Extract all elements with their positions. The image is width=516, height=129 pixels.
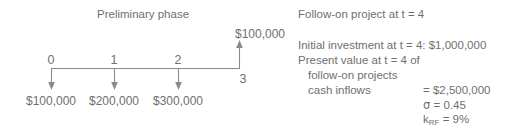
outflow-arrowhead-t1 (111, 82, 118, 90)
inflow-amount-t3: $100,000 (235, 28, 285, 40)
initial-investment-line: Initial investment at t = 4: $1,000,000 (298, 40, 486, 52)
k-symbol: k (423, 113, 429, 125)
sigma-value-row: σ = 0.45 (423, 100, 466, 112)
cash-inflows-line: cash inflows (308, 85, 371, 97)
tick-label-t3: 3 (240, 73, 247, 86)
cash-inflows-value: = $2,500,000 (423, 85, 490, 97)
outflow-amount-t0: $100,000 (26, 95, 76, 107)
outflow-arrowhead-t0 (48, 82, 55, 90)
tick-label-t0: 0 (48, 54, 55, 67)
sigma-value: = 0.45 (434, 99, 466, 111)
outflow-amount-t2: $300,000 (153, 95, 203, 107)
risk-free-rate-value: = 9% (443, 113, 470, 125)
risk-free-rate-row: kRF = 9% (423, 114, 469, 126)
follow-on-projects-line: follow-on projects (308, 70, 397, 82)
inflow-arrowhead-t3 (236, 40, 243, 48)
follow-on-project-heading: Follow-on project at t = 4 (298, 9, 424, 21)
present-value-line: Present value at t = 4 of (298, 55, 420, 67)
cash-flow-timeline-figure: Preliminary phase 0 1 2 3 $100,000 $200,… (0, 0, 516, 129)
tick-label-t2: 2 (175, 54, 182, 67)
sigma-icon: σ (423, 98, 430, 112)
preliminary-phase-title: Preliminary phase (97, 9, 189, 21)
follow-on-project-notes: Follow-on project at t = 4 Initial inves… (298, 0, 516, 129)
k-subscript: RF (429, 118, 440, 127)
outflow-amount-t1: $200,000 (89, 95, 139, 107)
tick-label-t1: 1 (111, 54, 118, 67)
outflow-arrowhead-t2 (175, 82, 182, 90)
